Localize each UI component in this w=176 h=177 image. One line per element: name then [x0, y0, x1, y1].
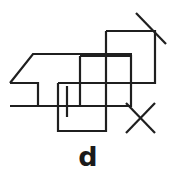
trapezoid-base-left	[10, 83, 38, 106]
figure-caption-label: d	[0, 142, 176, 172]
trapezoid-arrow-left	[10, 54, 132, 83]
diagonal-slash-top-right	[136, 13, 166, 44]
figure-panel: d	[0, 0, 176, 177]
stroke-group	[10, 13, 166, 133]
